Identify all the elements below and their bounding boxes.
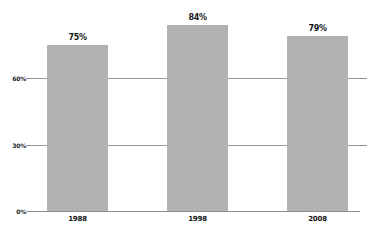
bar-1988 [47,45,108,211]
bar-1998 [167,25,228,211]
y-axis-tick-label-60: 60% [12,75,26,82]
y-tick-mark-60-right [360,78,367,79]
bar-chart: 60% 30% 0% 75% 84% 79% 1988 1998 2008 [0,0,373,242]
x-axis-tick-label-1998: 1998 [167,215,228,224]
x-axis-tick-label-1988: 1988 [47,215,108,224]
y-tick-mark-30-right [360,145,367,146]
bar-2008 [287,36,348,211]
y-axis-tick-label-0: 0% [16,208,26,215]
bar-value-label-1998: 84% [167,13,228,22]
y-tick-mark-60-left [26,78,33,79]
x-axis-tick-label-2008: 2008 [287,215,348,224]
bar-value-label-2008: 79% [287,24,348,33]
bar-value-label-1988: 75% [47,33,108,42]
x-axis-line [33,211,360,212]
y-tick-mark-0-left [26,211,33,212]
y-axis-tick-label-30: 30% [12,142,26,149]
y-tick-mark-30-left [26,145,33,146]
